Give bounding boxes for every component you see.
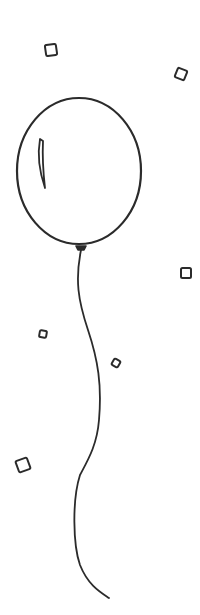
confetti-square — [45, 44, 57, 56]
balloon-highlight — [39, 139, 45, 188]
confetti-square — [39, 330, 47, 338]
confetti-square — [174, 67, 187, 80]
balloon-drawing — [0, 0, 200, 615]
confetti-square — [181, 268, 191, 278]
balloon-string — [74, 250, 109, 598]
balloon-body — [17, 98, 141, 244]
balloon-illustration — [0, 0, 200, 615]
confetti-group — [15, 44, 191, 473]
confetti-square — [111, 358, 121, 368]
confetti-square — [15, 457, 30, 472]
